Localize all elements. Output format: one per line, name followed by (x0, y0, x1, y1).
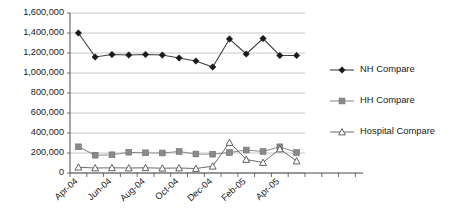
x-axis-tick-label: Oct-04 (153, 176, 180, 202)
chart-container: 1,600,0001,400,0001,200,0001,000,000800,… (0, 0, 464, 221)
x-axis-tick-label: Dec-04 (185, 176, 214, 203)
x-axis-tick-label: Apr-04 (53, 176, 80, 202)
data-point-marker-diamond (176, 55, 182, 61)
data-point-marker-square (126, 149, 132, 155)
y-axis-tick-label: 0 (59, 167, 64, 177)
data-point-marker-square (210, 151, 216, 157)
legend-item-hh-compare[interactable]: HH Compare (330, 94, 415, 105)
x-axis-tick-label: Jun-04 (86, 176, 114, 202)
series-hh-compare (75, 144, 299, 158)
data-point-marker-square (193, 151, 199, 157)
data-point-marker-triangle (226, 139, 233, 145)
y-axis-tick-label: 1,000,000 (23, 67, 64, 77)
y-axis-tick-label: 1,600,000 (23, 7, 64, 17)
data-point-marker-square (260, 149, 266, 155)
data-point-marker-diamond (92, 54, 98, 60)
data-point-marker-triangle (293, 158, 300, 164)
y-axis-tick-label: 1,200,000 (23, 47, 64, 57)
data-point-marker-triangle (209, 163, 216, 169)
data-point-marker-diamond (193, 58, 199, 64)
legend-label: Hospital Compare (360, 125, 435, 136)
y-axis-tick-label: 800,000 (31, 87, 64, 97)
line-chart: 1,600,0001,400,0001,200,0001,000,000800,… (0, 0, 464, 221)
data-point-marker-diamond (142, 51, 148, 57)
legend-label: NH Compare (360, 63, 415, 74)
data-series (75, 30, 300, 172)
data-point-marker-square (294, 150, 300, 156)
data-point-marker-square (143, 150, 149, 156)
data-point-marker-square (92, 152, 98, 158)
data-point-marker-square (243, 147, 249, 153)
series-nh-compare (75, 30, 300, 70)
y-axis-tick-label: 600,000 (31, 107, 64, 117)
chart-legend: NH CompareHH CompareHospital Compare (330, 63, 435, 136)
data-point-marker-square (227, 150, 233, 156)
x-axis-tick-label: Apr-05 (254, 176, 281, 202)
x-axis-tick-labels: Apr-04Jun-04Aug-04Oct-04Dec-04Feb-05Apr-… (53, 176, 282, 203)
legend-label: HH Compare (360, 94, 415, 105)
y-axis-tick-label: 1,400,000 (23, 27, 64, 37)
data-point-marker-square (339, 98, 345, 104)
x-axis-tick-label: Feb-05 (219, 176, 247, 203)
data-point-marker-diamond (109, 51, 115, 57)
data-point-marker-square (159, 150, 165, 156)
gridlines (67, 13, 305, 173)
data-point-marker-diamond (209, 64, 215, 70)
data-point-marker-diamond (339, 67, 345, 73)
legend-item-hospital-compare[interactable]: Hospital Compare (330, 125, 435, 136)
legend-item-nh-compare[interactable]: NH Compare (330, 63, 415, 74)
y-axis-tick-label: 200,000 (31, 147, 64, 157)
y-axis-tick-labels: 1,600,0001,400,0001,200,0001,000,000800,… (23, 7, 64, 177)
data-point-marker-square (75, 144, 81, 150)
data-point-marker-square (176, 149, 182, 155)
y-axis-tick-label: 400,000 (31, 127, 64, 137)
x-axis-tick-marks (70, 173, 355, 177)
x-axis-tick-label: Aug-04 (118, 176, 147, 203)
data-point-marker-square (109, 152, 115, 158)
